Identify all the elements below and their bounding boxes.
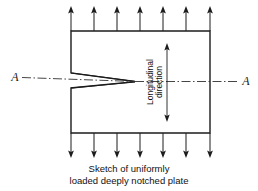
bottom-load-arrow [207, 133, 213, 158]
bottom-load-arrow [114, 133, 120, 158]
longitudinal-direction-label-line2: direction [154, 66, 164, 98]
top-load-arrow [68, 6, 74, 31]
top-load-arrow [114, 6, 120, 31]
top-load-arrow [91, 6, 97, 31]
longitudinal-direction-arrow [164, 43, 169, 122]
top-load-arrow-group [68, 6, 213, 31]
bottom-load-arrow [183, 133, 189, 158]
bottom-load-arrow [68, 133, 74, 158]
top-load-arrow [160, 6, 166, 31]
figure-caption-line1: Sketch of uniformly [89, 163, 170, 174]
bottom-load-arrow [91, 133, 97, 158]
longitudinal-direction-label: Longitudinal direction [145, 59, 164, 105]
bottom-load-arrow-group [68, 133, 213, 158]
top-load-arrow [183, 6, 189, 31]
bottom-load-arrow [160, 133, 166, 158]
figure-caption: Sketch of uniformly loaded deeply notche… [70, 163, 189, 186]
top-load-arrow [207, 6, 213, 31]
section-label-right: A [241, 74, 250, 88]
figure-root: A A Longitudinal direction Sketch of uni… [0, 0, 258, 191]
plate-outline [71, 31, 210, 133]
section-label-left: A [10, 70, 19, 84]
figure-caption-line2: loaded deeply notched plate [70, 175, 189, 186]
top-load-arrow [137, 6, 143, 31]
bottom-load-arrow [137, 133, 143, 158]
notched-plate-diagram: A A Longitudinal direction Sketch of uni… [0, 0, 258, 191]
